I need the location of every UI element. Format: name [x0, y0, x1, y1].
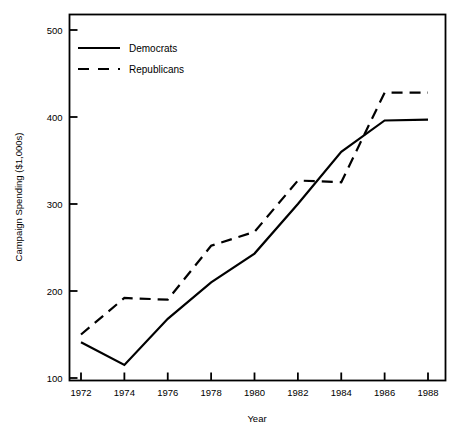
plot-border	[70, 15, 446, 381]
y-tick-label-400: 400	[47, 112, 63, 123]
chart-legend: DemocratsRepublicans	[78, 43, 184, 75]
y-tick-label-300: 300	[47, 199, 63, 210]
x-axis-tick-labels: 197219741976197819801982198419861988	[70, 387, 438, 398]
y-tick-label-500: 500	[47, 25, 63, 36]
series-line-democrats	[81, 120, 428, 365]
x-tick-label-1986: 1986	[374, 387, 395, 398]
x-axis-title: Year	[247, 413, 266, 424]
x-tick-label-1978: 1978	[201, 387, 222, 398]
x-tick-label-1984: 1984	[331, 387, 352, 398]
x-tick-label-1974: 1974	[114, 387, 135, 398]
y-tick-label-100: 100	[47, 373, 63, 384]
y-axis-title: Campaign Spending ($1,000s)	[13, 133, 24, 262]
legend-label-democrats: Democrats	[129, 43, 177, 54]
y-tick-label-200: 200	[47, 286, 63, 297]
line-chart-svg: 100200300400500 197219741976197819801982…	[0, 0, 464, 437]
y-axis-ticks	[70, 30, 78, 378]
series-line-republicans	[81, 93, 428, 335]
x-tick-label-1976: 1976	[157, 387, 178, 398]
y-axis-tick-labels: 100200300400500	[47, 25, 63, 384]
x-tick-label-1972: 1972	[70, 387, 91, 398]
chart-figure: 100200300400500 197219741976197819801982…	[0, 0, 464, 437]
x-axis-ticks	[81, 373, 428, 381]
x-tick-label-1980: 1980	[244, 387, 265, 398]
legend-label-republicans: Republicans	[129, 64, 184, 75]
x-tick-label-1988: 1988	[417, 387, 438, 398]
data-series-group	[81, 93, 428, 365]
x-tick-label-1982: 1982	[287, 387, 308, 398]
